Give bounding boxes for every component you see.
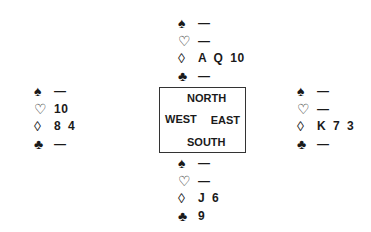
north-hand: ♠ — ♡ — ◊ A Q 10 ♣ — <box>178 15 245 85</box>
east-hand: ♠ — ♡ — ◊ K 7 3 ♣ — <box>297 83 354 153</box>
spade-icon: ♠ <box>178 155 198 173</box>
compass-box: NORTH WEST EAST SOUTH <box>159 87 246 153</box>
west-clubs-row: ♣ — <box>34 136 75 154</box>
east-hearts-row: ♡ — <box>297 101 354 119</box>
club-icon: ♣ <box>178 68 198 86</box>
west-clubs-cards: — <box>54 136 67 154</box>
heart-icon: ♡ <box>297 101 317 119</box>
north-hearts-row: ♡ — <box>178 33 245 51</box>
club-icon: ♣ <box>178 208 198 226</box>
south-hand: ♠ — ♡ — ◊ J 6 ♣ 9 <box>178 155 219 225</box>
south-spades-cards: — <box>198 155 211 173</box>
east-clubs-cards: — <box>317 136 330 154</box>
west-hand: ♠ — ♡ 10 ◊ 8 4 ♣ — <box>34 83 75 153</box>
heart-icon: ♡ <box>178 173 198 191</box>
diamond-icon: ◊ <box>178 50 198 68</box>
west-diamonds-cards: 8 4 <box>54 118 75 136</box>
north-diamonds-cards: A Q 10 <box>198 50 245 68</box>
east-spades-row: ♠ — <box>297 83 354 101</box>
east-clubs-row: ♣ — <box>297 136 354 154</box>
spade-icon: ♠ <box>178 15 198 33</box>
north-spades-row: ♠ — <box>178 15 245 33</box>
north-diamonds-row: ◊ A Q 10 <box>178 50 245 68</box>
south-hearts-cards: — <box>198 173 211 191</box>
diamond-icon: ◊ <box>178 190 198 208</box>
north-clubs-cards: — <box>198 68 211 86</box>
club-icon: ♣ <box>297 136 317 154</box>
west-spades-row: ♠ — <box>34 83 75 101</box>
club-icon: ♣ <box>34 136 54 154</box>
east-hearts-cards: — <box>317 101 330 119</box>
west-label: WEST <box>165 113 197 125</box>
west-spades-cards: — <box>54 83 67 101</box>
spade-icon: ♠ <box>297 83 317 101</box>
south-clubs-row: ♣ 9 <box>178 208 219 226</box>
east-spades-cards: — <box>317 83 330 101</box>
east-diamonds-cards: K 7 3 <box>317 118 354 136</box>
south-diamonds-row: ◊ J 6 <box>178 190 219 208</box>
south-diamonds-cards: J 6 <box>198 190 219 208</box>
south-clubs-cards: 9 <box>198 208 205 226</box>
south-label: SOUTH <box>187 136 226 148</box>
north-hearts-cards: — <box>198 33 211 51</box>
west-hearts-row: ♡ 10 <box>34 101 75 119</box>
north-spades-cards: — <box>198 15 211 33</box>
north-clubs-row: ♣ — <box>178 68 245 86</box>
east-diamonds-row: ◊ K 7 3 <box>297 118 354 136</box>
heart-icon: ♡ <box>34 101 54 119</box>
heart-icon: ♡ <box>178 33 198 51</box>
spade-icon: ♠ <box>34 83 54 101</box>
west-diamonds-row: ◊ 8 4 <box>34 118 75 136</box>
diamond-icon: ◊ <box>34 118 54 136</box>
south-hearts-row: ♡ — <box>178 173 219 191</box>
west-hearts-cards: 10 <box>54 101 68 119</box>
north-label: NORTH <box>187 92 226 104</box>
south-spades-row: ♠ — <box>178 155 219 173</box>
diamond-icon: ◊ <box>297 118 317 136</box>
east-label: EAST <box>211 114 240 126</box>
